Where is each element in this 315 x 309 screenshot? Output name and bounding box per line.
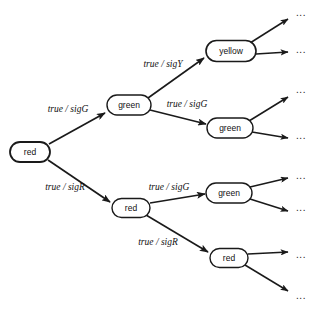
node-label-n4: green: [219, 123, 241, 133]
open-branch-edge-1: [250, 19, 288, 43]
tree-canvas: redgreenredyellowgreengreenred true / si…: [0, 0, 315, 309]
edge-label-n0-to-n1: true / sigG: [48, 104, 89, 114]
ellipsis-group: ........................: [296, 7, 306, 301]
ellipsis-4: ...: [296, 130, 306, 141]
state-node-n5-green[interactable]: green: [206, 183, 252, 203]
open-branch-edge-2: [256, 52, 288, 54]
node-label-n0: red: [24, 147, 37, 157]
ellipsis-6: ...: [296, 202, 306, 213]
ellipsis-2: ...: [296, 44, 306, 55]
transition-edges-group: [48, 58, 208, 252]
ellipsis-1: ...: [296, 7, 306, 18]
open-branch-edge-4: [252, 132, 288, 138]
node-label-n5: green: [218, 188, 240, 198]
state-node-n2-red[interactable]: red: [112, 199, 150, 218]
node-label-n1: green: [118, 100, 140, 110]
ellipsis-3: ...: [296, 84, 306, 95]
transition-edge-n1-to-n4: [150, 110, 206, 124]
node-label-n2: red: [125, 203, 138, 213]
edge-label-n1-to-n3: true / sigY: [143, 59, 184, 69]
transition-edge-n0-to-n2: [48, 160, 110, 202]
ellipsis-5: ...: [296, 170, 306, 181]
node-label-n6: red: [223, 253, 236, 263]
state-node-n3-yellow[interactable]: yellow: [206, 41, 256, 62]
state-node-n0-red[interactable]: red: [10, 142, 50, 162]
computation-tree-figure: redgreenredyellowgreengreenred true / si…: [0, 0, 315, 309]
transition-edge-n2-to-n5: [150, 194, 205, 203]
open-branch-edge-3: [249, 97, 288, 121]
state-nodes-group: redgreenredyellowgreengreenred: [10, 41, 256, 268]
ellipsis-7: ...: [296, 249, 306, 260]
edge-label-n2-to-n6: true / sigR: [138, 237, 178, 247]
open-branch-edge-8: [245, 265, 288, 291]
transition-edge-n0-to-n1: [49, 113, 105, 144]
ellipsis-8: ...: [296, 290, 306, 301]
open-branch-edge-6: [250, 199, 288, 211]
state-node-n1-green[interactable]: green: [107, 95, 151, 115]
open-branch-edge-7: [248, 252, 288, 254]
edge-label-n0-to-n2: true / sigR: [45, 182, 85, 192]
open-branch-edge-5: [250, 178, 288, 187]
state-node-n6-red[interactable]: red: [210, 249, 248, 268]
state-node-n4-green[interactable]: green: [207, 118, 253, 138]
node-label-n3: yellow: [219, 46, 243, 56]
edge-labels-group: true / sigGtrue / sigRtrue / sigYtrue / …: [45, 59, 207, 247]
edge-label-n1-to-n4: true / sigG: [167, 99, 208, 109]
edge-label-n2-to-n5: true / sigG: [149, 182, 190, 192]
